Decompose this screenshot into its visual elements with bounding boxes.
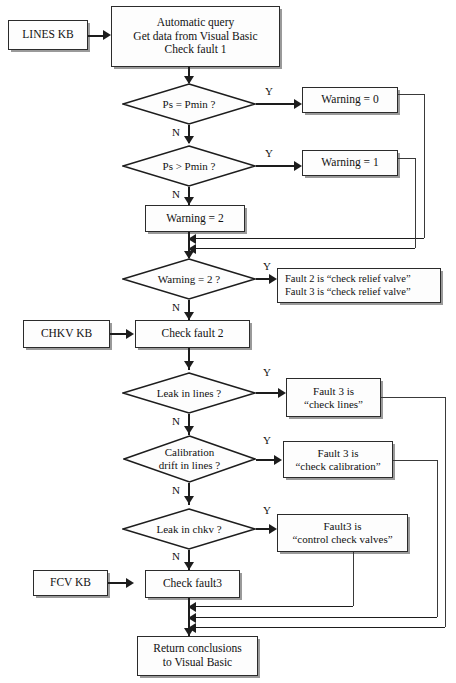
node-fault-calibration: Fault 3 is “check calibration” <box>283 441 393 478</box>
node-lines-kb: LINES KB <box>8 20 88 50</box>
arrowhead-dwarn2-to-faultrelief <box>269 274 277 284</box>
node-warning1-label: Warning = 1 <box>321 156 378 170</box>
node-d-leak-lines: Leak in lines ? <box>122 372 256 414</box>
loop-warning0-vertical <box>424 94 425 238</box>
node-d-leak-lines-label: Leak in lines ? <box>157 387 221 400</box>
edge-label-y5: Y <box>263 434 271 446</box>
arrowhead-dpseq-to-warning0 <box>294 99 302 109</box>
edge-label-y2: Y <box>265 147 273 159</box>
node-check-fault3: Check fault3 <box>145 570 240 598</box>
node-lines-kb-label: LINES KB <box>22 28 73 42</box>
node-fault-relief-line2: Fault 3 is “check relief valve” <box>278 286 447 298</box>
edge-label-y4: Y <box>263 366 271 378</box>
edge-label-y3: Y <box>263 260 271 272</box>
loop-faultcalib-return <box>190 617 437 619</box>
node-fault-chkv-line1: Fault3 is <box>323 520 361 533</box>
node-warning0: Warning = 0 <box>302 87 398 113</box>
node-return: Return conclusions to Visual Basic <box>137 636 258 676</box>
node-fcv-kb-label: FCV KB <box>50 576 91 590</box>
node-d-calibration-line2: drift in lines ? <box>159 459 220 472</box>
node-return-line1: Return conclusions <box>153 642 241 656</box>
node-d-leak-chkv-label: Leak in chkv ? <box>156 523 221 536</box>
loop-warning1-return <box>190 248 415 250</box>
edge-label-n6: N <box>172 550 180 562</box>
arrowhead-dcalib-to-dleakchkv <box>184 496 194 504</box>
arrowhead-lineskb-to-start <box>103 30 111 40</box>
node-fault-calibration-line1: Fault 3 is <box>318 447 359 460</box>
arrowhead-dleakchkv-to-checkfault3 <box>184 562 194 570</box>
arrowhead-dleaklines-to-dcalib <box>184 426 194 434</box>
node-fault-lines-line2: “check lines” <box>304 398 363 411</box>
node-warning2-label: Warning = 2 <box>166 212 223 226</box>
node-chkv-kb: CHKV KB <box>23 320 110 348</box>
edge-dpsgt-to-warning1 <box>256 165 297 167</box>
loop-warning0-return <box>190 238 424 240</box>
arrowhead-dpseq-to-dpsgt <box>184 136 194 144</box>
node-fcv-kb: FCV KB <box>33 570 108 596</box>
loop-faultchkv-return <box>190 606 353 608</box>
edge-label-y1: Y <box>265 85 273 97</box>
node-d-warning2: Warning = 2 ? <box>122 258 256 300</box>
edge-label-y6: Y <box>263 504 271 516</box>
node-start-line2: Get data from Visual Basic <box>133 30 257 44</box>
node-return-line2: to Visual Basic <box>163 656 232 670</box>
arrowhead-dleaklines-to-faultlines <box>278 388 286 398</box>
edge-label-n3: N <box>172 301 180 313</box>
arrowhead-spine-to-return <box>184 628 194 636</box>
node-d-ps-eq: Ps = Pmin ? <box>122 83 256 125</box>
node-fault-chkv-line2: “control check valves” <box>292 533 392 546</box>
node-check-fault2-label: Check fault 2 <box>162 327 224 341</box>
edge-lineskb-to-start <box>88 35 104 37</box>
node-start: Automatic query Get data from Visual Bas… <box>111 6 280 67</box>
loop-faultlines-return <box>190 627 445 629</box>
arrowhead-dwarn2-to-checkfault2 <box>184 312 194 320</box>
node-chkv-kb-label: CHKV KB <box>41 327 92 341</box>
node-d-ps-eq-label: Ps = Pmin ? <box>163 98 216 111</box>
node-d-calibration-line1: Calibration <box>165 446 215 459</box>
arrowhead-checkfault2-to-dleaklines <box>184 361 194 369</box>
edge-dcalib-to-faultcalib <box>256 459 276 461</box>
edge-label-n1: N <box>172 126 180 138</box>
arrowhead-dpsgt-to-warning1 <box>294 161 302 171</box>
loop-faultcalib-vertical <box>437 460 438 617</box>
arrowhead-dcalib-to-faultcalib <box>274 455 282 465</box>
loop-warning1-top <box>398 158 416 159</box>
node-fault-lines-line1: Fault 3 is <box>313 385 354 398</box>
node-fault-chkv: Fault3 is “control check valves” <box>277 514 408 552</box>
node-d-leak-chkv: Leak in chkv ? <box>122 508 256 550</box>
node-d-calibration: Calibration drift in lines ? <box>123 435 256 483</box>
node-start-line3: Check fault 1 <box>165 43 227 57</box>
node-fault-calibration-line2: “check calibration” <box>295 460 380 473</box>
flowchart-canvas: LINES KB Automatic query Get data from V… <box>0 0 456 683</box>
loop-faultlines-vertical <box>445 397 446 627</box>
node-warning0-label: Warning = 0 <box>321 93 378 107</box>
node-d-warning2-label: Warning = 2 ? <box>158 273 220 286</box>
node-d-ps-gt: Ps > Pmin ? <box>122 145 256 187</box>
node-fault-relief: Fault 2 is “check relief valve” Fault 3 … <box>277 268 441 303</box>
arrowhead-dleakchkv-to-faultchkv <box>269 524 277 534</box>
node-check-fault3-label: Check fault3 <box>163 577 222 591</box>
edge-dpseq-to-warning0 <box>256 103 297 105</box>
node-check-fault2: Check fault 2 <box>135 320 250 348</box>
loop-warning0-top <box>398 94 425 95</box>
loop-faultlines-top <box>381 397 446 398</box>
edge-label-n5: N <box>172 484 180 496</box>
node-d-ps-gt-label: Ps > Pmin ? <box>163 160 216 173</box>
node-start-line1: Automatic query <box>157 16 235 30</box>
edge-fcvkb-to-checkfault3 <box>108 582 128 584</box>
edge-label-n4: N <box>172 415 180 427</box>
node-fault-lines: Fault 3 is “check lines” <box>286 378 381 417</box>
arrowhead-chkvkb-to-checkfault2 <box>126 329 134 339</box>
loop-warning1-vertical <box>415 158 416 248</box>
arrowhead-dpsgt-to-warning2 <box>184 197 194 205</box>
loop-faultcalib-top <box>393 460 438 461</box>
node-fault-relief-line1: Fault 2 is “check relief valve” <box>278 273 447 285</box>
arrowhead-fcvkb-to-checkfault3 <box>126 578 134 588</box>
edge-label-n2: N <box>172 188 180 200</box>
node-warning2: Warning = 2 <box>145 205 245 232</box>
node-warning1: Warning = 1 <box>302 150 398 176</box>
loop-faultchkv-vertical <box>353 552 354 606</box>
